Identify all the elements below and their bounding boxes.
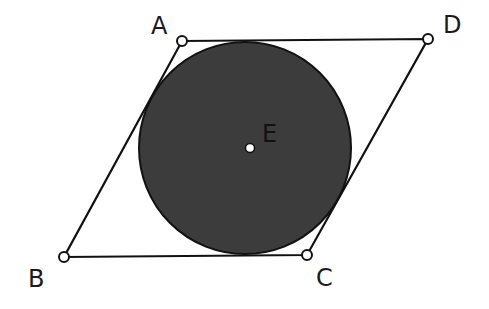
- point-b: [59, 252, 69, 262]
- label-a: A: [151, 12, 168, 40]
- label-c: C: [316, 264, 333, 292]
- point-e: [246, 144, 255, 153]
- point-d: [423, 34, 433, 44]
- label-e: E: [262, 120, 277, 148]
- point-a: [177, 36, 187, 46]
- label-b: B: [28, 265, 44, 293]
- label-d: D: [443, 11, 461, 39]
- geometry-diagram: A D B C E: [0, 0, 489, 309]
- point-c: [302, 250, 312, 260]
